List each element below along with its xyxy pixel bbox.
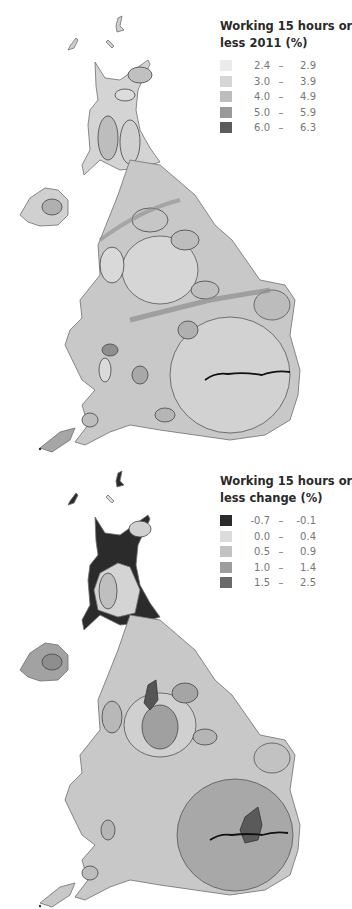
legend-class-4: 1.0–1.4 (220, 560, 352, 576)
legend-class-5: 1.5–2.5 (220, 575, 352, 591)
range-high: 5.9 (292, 107, 316, 118)
map-panel-change: Working 15 hours or less change (%) -0.7… (0, 455, 328, 909)
legend-swatch (220, 91, 232, 102)
legend-class-2: 3.0–3.9 (220, 74, 352, 90)
legend-class-3: 4.0–4.9 (220, 89, 352, 105)
range-dash: – (270, 91, 292, 102)
range-high: 0.9 (292, 546, 316, 557)
range-high: -0.1 (292, 515, 316, 526)
legend-swatch (220, 515, 232, 526)
legend-title-line2: less change (%) (220, 490, 352, 507)
legend-title-line2: less 2011 (%) (220, 35, 352, 52)
legend-title-line1: Working 15 hours or (220, 18, 352, 35)
range-dash: – (270, 515, 292, 526)
legend-class-1: -0.7–-0.1 (220, 513, 352, 529)
legend-swatch (220, 76, 232, 87)
legend-swatch (220, 577, 232, 588)
legend-class-2: 0.0–0.4 (220, 529, 352, 545)
range-high: 2.9 (292, 60, 316, 71)
range-low: 0.5 (246, 546, 270, 557)
legend-change: Working 15 hours or less change (%) -0.7… (220, 473, 352, 591)
legend-2011: Working 15 hours or less 2011 (%) 2.4–2.… (220, 18, 352, 136)
legend-class-5: 6.0–6.3 (220, 120, 352, 136)
range-low: 1.5 (246, 577, 270, 588)
map-panel-2011: Working 15 hours or less 2011 (%) 2.4–2.… (0, 0, 328, 455)
range-low: 6.0 (246, 122, 270, 133)
range-low: 3.0 (246, 76, 270, 87)
range-high: 0.4 (292, 531, 316, 542)
legend-swatch (220, 122, 232, 133)
legend-swatch (220, 60, 232, 71)
range-low: 0.0 (246, 531, 270, 542)
range-dash: – (270, 76, 292, 87)
legend-title-line1: Working 15 hours or (220, 473, 352, 490)
range-high: 2.5 (292, 577, 316, 588)
range-high: 4.9 (292, 91, 316, 102)
legend-swatch (220, 531, 232, 542)
range-low: 4.0 (246, 91, 270, 102)
range-high: 6.3 (292, 122, 316, 133)
legend-swatch (220, 546, 232, 557)
range-dash: – (270, 60, 292, 71)
legend-class-3: 0.5–0.9 (220, 544, 352, 560)
legend-class-1: 2.4–2.9 (220, 58, 352, 74)
range-dash: – (270, 546, 292, 557)
range-dash: – (270, 531, 292, 542)
range-low: 5.0 (246, 107, 270, 118)
range-dash: – (270, 562, 292, 573)
range-low: 1.0 (246, 562, 270, 573)
legend-swatch (220, 562, 232, 573)
legend-swatch (220, 107, 232, 118)
range-dash: – (270, 577, 292, 588)
range-high: 1.4 (292, 562, 316, 573)
legend-class-4: 5.0–5.9 (220, 105, 352, 121)
range-low: 2.4 (246, 60, 270, 71)
range-dash: – (270, 107, 292, 118)
range-dash: – (270, 122, 292, 133)
range-low: -0.7 (246, 515, 270, 526)
range-high: 3.9 (292, 76, 316, 87)
